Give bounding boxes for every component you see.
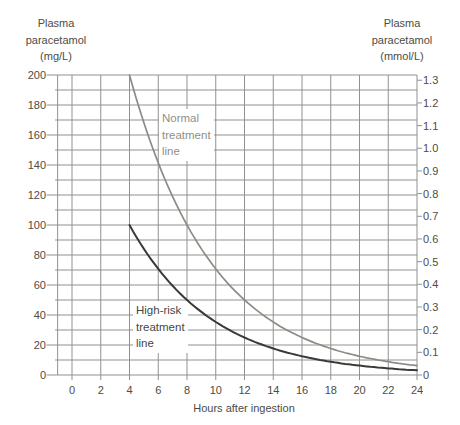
y-right-tick-label: 0.7: [423, 208, 453, 224]
y-right-tick-label: 0.9: [423, 163, 453, 179]
y-left-tick-label: 60: [12, 277, 46, 293]
y-left-tick-label: 40: [12, 307, 46, 323]
y-left-tick-label: 20: [12, 337, 46, 353]
y-right-tick-label: 0.5: [423, 254, 453, 270]
y-right-tick-label: 0.6: [423, 231, 453, 247]
x-tick-label: 14: [261, 382, 285, 398]
x-axis-title: Hours after ingestion: [174, 402, 314, 414]
y-left-tick-label: 0: [12, 367, 46, 383]
high-risk-treatment-line-curve: [130, 225, 418, 370]
y-left-tick-label: 140: [12, 157, 46, 173]
y-right-tick-label: 0.3: [423, 299, 453, 315]
y-left-tick-label: 120: [12, 187, 46, 203]
normal-treatment-line-curve: [130, 75, 418, 366]
paracetamol-nomogram-figure: Plasma paracetamol (mg/L) Plasma paracet…: [0, 0, 460, 425]
y-left-tick-label: 80: [12, 247, 46, 263]
x-tick-label: 0: [60, 382, 84, 398]
x-tick-label: 12: [233, 382, 257, 398]
y-right-tick-label: 1.1: [423, 118, 453, 134]
y-right-axis-title: Plasma paracetamol (mmol/L): [350, 15, 454, 65]
y-right-tick-label: 0.8: [423, 186, 453, 202]
x-tick-label: 6: [146, 382, 170, 398]
x-tick-label: 20: [348, 382, 372, 398]
y-right-tick-label: 1.0: [423, 140, 453, 156]
y-left-axis-title: Plasma paracetamol (mg/L): [6, 15, 106, 65]
y-right-tick-label: 0.4: [423, 276, 453, 292]
y-right-tick-label: 0.1: [423, 344, 453, 360]
y-right-tick-label: 0.2: [423, 322, 453, 338]
x-tick-label: 16: [290, 382, 314, 398]
x-tick-label: 22: [376, 382, 400, 398]
y-left-tick-label: 180: [12, 97, 46, 113]
x-tick-label: 4: [118, 382, 142, 398]
x-tick-label: 18: [319, 382, 343, 398]
y-left-tick-label: 100: [12, 217, 46, 233]
y-left-tick-label: 200: [12, 67, 46, 83]
x-tick-label: 10: [204, 382, 228, 398]
y-left-tick-label: 160: [12, 127, 46, 143]
y-right-tick-label: 1.3: [423, 72, 453, 88]
x-tick-label: 2: [89, 382, 113, 398]
y-right-tick-label: 1.2: [423, 95, 453, 111]
x-tick-label: 8: [175, 382, 199, 398]
x-tick-label: 24: [405, 382, 429, 398]
y-right-tick-label: 0: [423, 367, 453, 383]
